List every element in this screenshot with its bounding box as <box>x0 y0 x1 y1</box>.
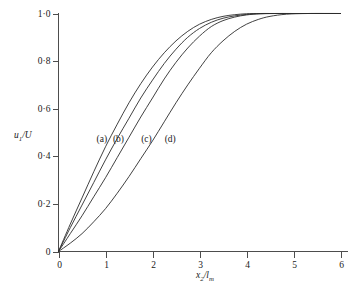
y-tick-label: 1·0 <box>19 10 51 20</box>
chart-plot-svg <box>0 0 360 294</box>
curve-annotation-a: (a) <box>97 135 108 145</box>
x-tick-label: 3 <box>189 261 213 271</box>
series-curve-b <box>59 13 341 251</box>
y-axis-title-denom: U <box>25 130 32 140</box>
x-tick-label: 5 <box>283 261 307 271</box>
x-tick-label: 6 <box>330 261 354 271</box>
series-curve-a <box>59 13 341 251</box>
y-tick-label: 0·4 <box>19 152 51 162</box>
x-tick-label: 1 <box>95 261 119 271</box>
series-curve-c <box>59 13 341 251</box>
y-tick-label: 0·2 <box>19 200 51 210</box>
curve-annotation-b: (b) <box>113 135 124 145</box>
y-tick-label: 0·6 <box>19 105 51 115</box>
x-tick-label: 4 <box>236 261 260 271</box>
x-tick-label: 2 <box>142 261 166 271</box>
x-axis-title: x2/lm <box>196 271 214 283</box>
y-axis-title: u1/U <box>14 131 32 143</box>
y-axis-ticks <box>53 15 59 253</box>
curve-annotation-d: (d) <box>165 135 176 145</box>
chart-figure: 00·20·40·60·81·0 0123456 (a)(b)(c)(d) u1… <box>0 0 360 294</box>
y-tick-label: 0·8 <box>19 57 51 67</box>
y-tick-label: 0 <box>19 248 51 258</box>
x-axis-ticks <box>60 252 342 258</box>
chart-series-group <box>59 13 341 251</box>
curve-annotation-c: (c) <box>141 135 152 145</box>
series-curve-d <box>59 13 341 251</box>
x-tick-label: 0 <box>48 261 72 271</box>
x-axis-title-denom-sub: m <box>209 275 214 282</box>
